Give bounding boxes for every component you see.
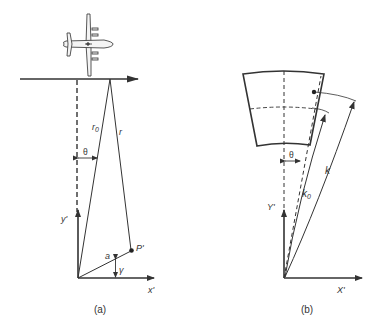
sector-point (312, 90, 316, 94)
label-k0: k0 (302, 188, 311, 200)
label-r: r (119, 127, 123, 137)
panel-a: r0 r θ y' x' P' a γ (a) (20, 14, 155, 315)
label-point-p: P' (136, 243, 144, 253)
r0-line (78, 79, 110, 278)
radial-dashed-line (284, 76, 321, 278)
caption-a: (a) (94, 304, 106, 315)
label-gamma: γ (119, 265, 124, 275)
label-y-axis-b: Y' (267, 202, 275, 212)
k-arrow (285, 102, 354, 277)
sector-mid-dashed-arc (250, 107, 316, 109)
label-r0: r0 (92, 122, 99, 133)
label-y-axis-a: y' (60, 214, 68, 224)
aircraft-icon (63, 14, 113, 76)
r-line (110, 79, 131, 250)
label-theta-a: θ (83, 147, 88, 157)
caption-b: (b) (301, 304, 313, 315)
label-a: a (105, 251, 110, 261)
point-p (129, 248, 134, 253)
label-x-axis-b: X' (336, 285, 345, 295)
panel-b: θ Y' X' k0 k (b) (243, 71, 362, 315)
diagram-canvas: r0 r θ y' x' P' a γ (a) θ (0, 0, 381, 329)
label-x-axis-a: x' (147, 285, 155, 295)
label-theta-b: θ (289, 150, 294, 160)
